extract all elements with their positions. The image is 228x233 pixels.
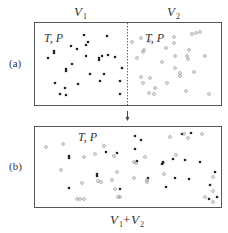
filled-particle xyxy=(174,177,177,180)
open-particle xyxy=(133,177,136,180)
open-particle xyxy=(144,156,147,159)
open-particle xyxy=(149,77,152,80)
filled-particle xyxy=(188,178,191,181)
open-particle xyxy=(204,196,207,199)
filled-particle xyxy=(85,55,88,58)
open-particle xyxy=(94,153,97,156)
open-particle xyxy=(103,145,106,148)
open-particle xyxy=(79,198,82,201)
open-particle xyxy=(186,55,189,58)
open-particle xyxy=(83,198,86,201)
panel-b-label: (b) xyxy=(9,160,22,173)
filled-particle xyxy=(106,35,109,38)
filled-particle xyxy=(101,55,104,58)
open-particle xyxy=(208,93,211,96)
open-particle xyxy=(165,47,168,50)
tp-label-a-right: T, P xyxy=(145,31,165,45)
open-particle xyxy=(131,41,134,44)
filled-particle xyxy=(107,54,110,57)
open-particle xyxy=(154,87,157,90)
open-particle xyxy=(97,180,100,183)
down-arrow-icon xyxy=(126,111,130,121)
filled-particle xyxy=(209,184,212,187)
filled-particle xyxy=(208,198,211,201)
filled-particle xyxy=(96,175,99,178)
filled-particle xyxy=(98,59,101,62)
label-v2: V 2 xyxy=(167,4,180,21)
open-particle xyxy=(111,179,114,182)
container-b xyxy=(35,127,222,208)
label-v1-plus-v2: V 1 + V 2 xyxy=(110,212,144,229)
filled-particle xyxy=(162,162,165,165)
filled-particle xyxy=(53,52,56,55)
filled-particle xyxy=(199,161,202,164)
open-particle xyxy=(113,155,116,158)
open-particle xyxy=(173,42,176,45)
filled-particle xyxy=(99,80,102,83)
open-particle xyxy=(62,143,65,146)
open-particle xyxy=(60,169,63,172)
filled-particle xyxy=(134,135,137,138)
filled-particle xyxy=(54,82,57,85)
filled-particle xyxy=(77,83,80,86)
panel-a-label: (a) xyxy=(9,57,22,70)
open-particle xyxy=(146,181,149,184)
filled-particle xyxy=(140,139,143,142)
open-particle xyxy=(140,76,143,79)
filled-particle xyxy=(134,148,137,151)
filled-particle xyxy=(59,93,62,96)
open-particle xyxy=(179,72,182,75)
particles-open-a xyxy=(131,31,211,96)
open-particle xyxy=(212,190,215,193)
open-particle xyxy=(163,173,166,176)
open-particle xyxy=(187,137,190,140)
open-particle xyxy=(153,93,156,96)
open-particle xyxy=(45,146,48,149)
filled-particle xyxy=(83,34,86,37)
filled-particle xyxy=(119,188,122,191)
filled-particle xyxy=(47,57,50,60)
open-particle xyxy=(174,55,177,58)
filled-particle xyxy=(103,73,106,76)
open-particle xyxy=(136,57,139,60)
open-particle xyxy=(193,71,196,74)
open-particle xyxy=(201,133,204,136)
open-particle xyxy=(175,154,178,157)
filled-particle xyxy=(172,158,175,161)
filled-particle xyxy=(76,48,79,51)
open-particle xyxy=(169,136,172,139)
svg-text:2: 2 xyxy=(176,12,180,21)
filled-particle xyxy=(184,159,187,162)
open-particle xyxy=(142,82,145,85)
open-particle xyxy=(173,36,176,39)
filled-particle xyxy=(119,93,122,96)
open-particle xyxy=(204,55,207,58)
open-particle xyxy=(148,92,151,95)
filled-particle xyxy=(65,94,68,97)
open-particle xyxy=(187,58,190,61)
open-particle xyxy=(174,67,177,70)
open-particle xyxy=(140,37,143,40)
open-particle xyxy=(83,156,86,159)
filled-particle xyxy=(116,152,119,155)
tp-label-b: T, P xyxy=(78,130,98,144)
open-particle xyxy=(212,201,215,204)
filled-particle xyxy=(121,67,124,70)
open-particle xyxy=(212,176,215,179)
filled-particle xyxy=(68,187,71,190)
open-particle xyxy=(116,171,119,174)
filled-particle xyxy=(65,70,68,73)
filled-particle xyxy=(165,186,168,189)
svg-text:1: 1 xyxy=(83,12,87,21)
filled-particle xyxy=(85,44,88,47)
filled-particle xyxy=(214,171,217,174)
open-particle xyxy=(199,31,202,34)
open-particle xyxy=(185,90,188,93)
tp-label-a-left: T, P xyxy=(44,31,64,45)
gas-mixing-diagram: V 1 V 2 (a) T, P T, P (b) T, P V 1 + V 2 xyxy=(0,0,228,233)
filled-particle xyxy=(87,41,90,44)
filled-particle xyxy=(216,196,219,199)
filled-particle xyxy=(190,132,193,135)
label-v1: V 1 xyxy=(74,4,87,21)
filled-particle xyxy=(105,151,108,154)
